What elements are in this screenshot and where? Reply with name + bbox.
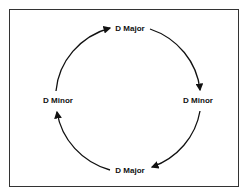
- arrow-top-to-right: [150, 29, 200, 90]
- node-bottom: D Major: [115, 166, 144, 175]
- arrow-bottom-to-left: [57, 112, 110, 170]
- node-right: D Minor: [183, 96, 213, 105]
- arrow-left-to-top: [56, 28, 110, 91]
- arrow-right-to-bottom: [152, 111, 200, 167]
- node-left: D Minor: [43, 96, 73, 105]
- node-top: D Major: [115, 24, 144, 33]
